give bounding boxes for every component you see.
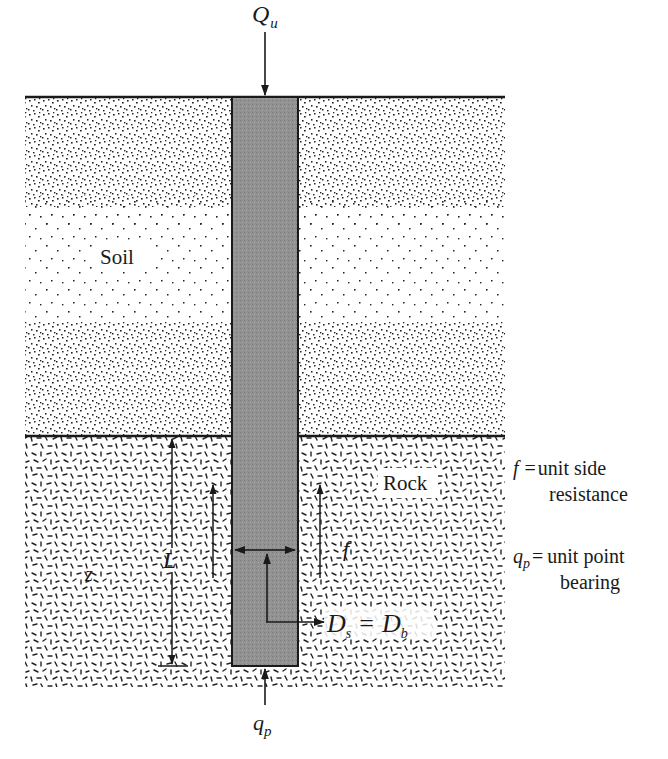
legend: f=unit side resistance qp=unit point bea… bbox=[513, 457, 628, 594]
point-label: qp bbox=[253, 710, 272, 739]
pile-rock-socket-diagram: Qu qp Soil Rock L z f Ds=Db f=unit side … bbox=[0, 0, 668, 759]
diameter-label: Ds=Db bbox=[326, 609, 408, 641]
legend-qp-line1: qp=unit point bbox=[513, 545, 625, 571]
rock-label: Rock bbox=[383, 471, 428, 495]
legend-f-line1: f=unit side bbox=[513, 457, 606, 480]
legend-f-line2: resistance bbox=[549, 483, 628, 505]
length-label: L bbox=[162, 547, 176, 573]
load-label: Qu bbox=[252, 1, 278, 31]
soil-label: Soil bbox=[100, 245, 134, 269]
depth-label: z bbox=[84, 563, 93, 585]
pile-shaft bbox=[232, 97, 298, 666]
legend-qp-line2: bearing bbox=[560, 571, 620, 594]
